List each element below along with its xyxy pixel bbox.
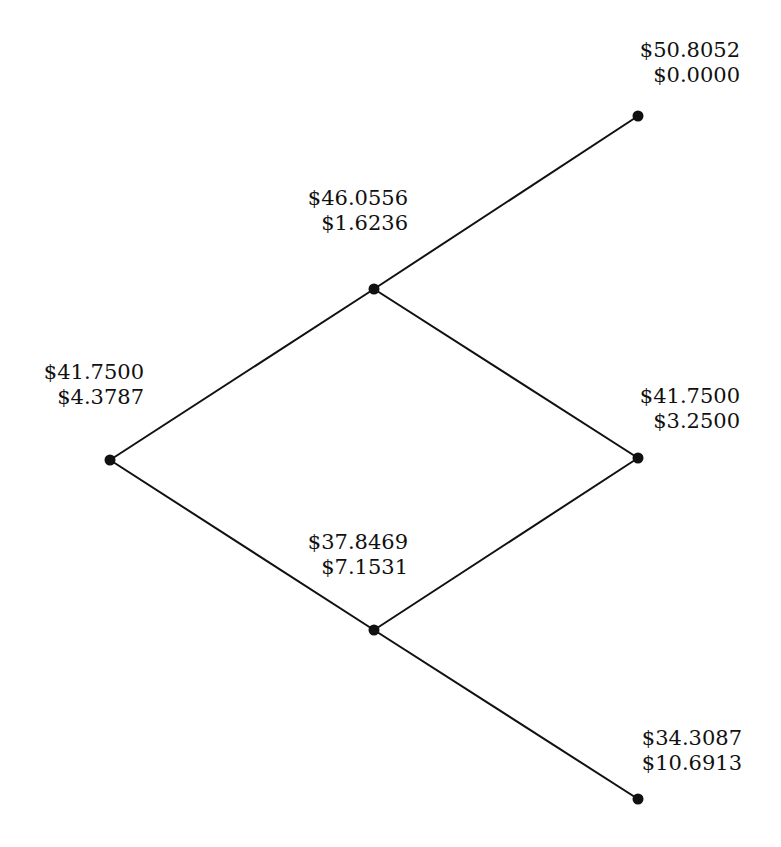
edge-d-ud (374, 458, 638, 630)
stock-price: $50.8052 (636, 38, 740, 63)
node-uu (633, 111, 644, 122)
stock-price: $41.7500 (636, 384, 740, 409)
node-ud (633, 453, 644, 464)
node-label-uu: $50.8052 $0.0000 (636, 38, 740, 88)
edge-root-u (110, 289, 374, 460)
node-dd (633, 794, 644, 805)
option-value: $10.6913 (636, 751, 742, 776)
node-label-ud: $41.7500 $3.2500 (636, 384, 740, 434)
node-label-u: $46.0556 $1.6236 (304, 186, 408, 236)
edge-d-dd (374, 630, 638, 799)
node-label-root: $41.7500 $4.3787 (40, 360, 144, 410)
option-value: $4.3787 (40, 385, 144, 410)
node-root (105, 455, 116, 466)
option-value: $0.0000 (636, 63, 740, 88)
option-value: $3.2500 (636, 409, 740, 434)
option-value: $7.1531 (304, 555, 408, 580)
node-u (369, 284, 380, 295)
edge-u-uu (374, 116, 638, 289)
option-value: $1.6236 (304, 211, 408, 236)
stock-price: $37.8469 (304, 530, 408, 555)
edge-u-ud (374, 289, 638, 458)
node-d (369, 625, 380, 636)
stock-price: $34.3087 (636, 726, 742, 751)
stock-price: $41.7500 (40, 360, 144, 385)
node-label-dd: $34.3087 $10.6913 (636, 726, 742, 776)
stock-price: $46.0556 (304, 186, 408, 211)
node-label-d: $37.8469 $7.1531 (304, 530, 408, 580)
